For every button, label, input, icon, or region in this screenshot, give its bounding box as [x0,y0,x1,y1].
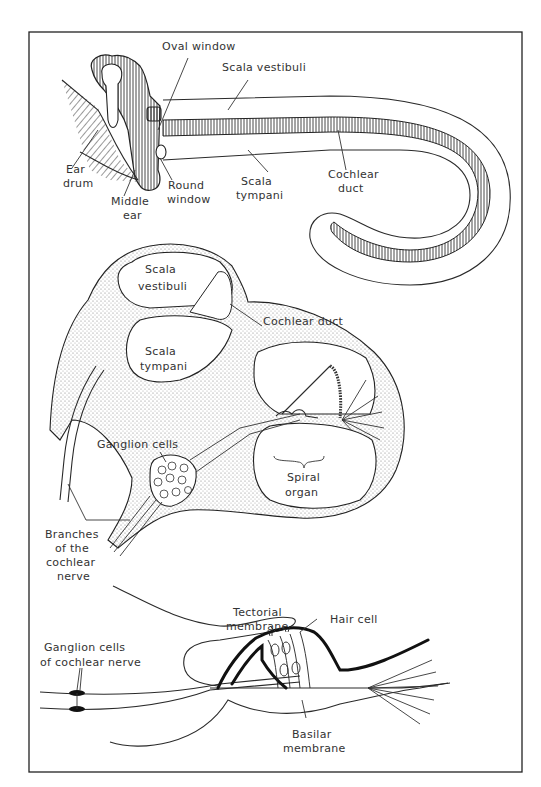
cochlear-duct-band [163,117,490,262]
label-branches-3: cochlear [46,556,95,569]
label-ear-drum-2: drum [63,177,93,190]
cochlea-figure: Oval window Scala vestibuli Ear drum Mid… [0,0,541,787]
label-scala-tympani-1: Scala [241,175,272,188]
label-middle-ear-1: Middle [111,195,149,208]
label-scala-vestibuli-2: vestibuli [138,280,187,293]
label-scala-vestibuli: Scala vestibuli [222,61,306,74]
label-ganglion-2: of cochlear nerve [40,656,141,669]
label-ganglion-cells: Ganglion cells [97,438,178,451]
label-spiral-organ-1: Spiral [287,471,320,484]
label-cochlear-duct-1: Cochlear [328,168,379,181]
label-scala-tympani-1: Scala [145,345,176,358]
label-cochlear-duct-2: duct [338,182,364,195]
label-oval-window: Oval window [162,40,236,53]
label-branches-4: nerve [57,570,90,583]
label-ear-drum-1: Ear [66,163,85,176]
panel-uncoiled-cochlea: Oval window Scala vestibuli Ear drum Mid… [62,40,510,285]
label-scala-tympani-2: tympani [236,189,283,202]
label-basilar-1: Basilar [292,728,332,741]
label-round-window-1: Round [168,179,204,192]
label-cochlear-duct: Cochlear duct [263,315,344,328]
label-branches-2: of the [55,542,89,555]
label-spiral-organ-2: organ [285,486,318,499]
panel-cross-section: Scala vestibuli Cochlear duct Scala tymp… [45,244,404,583]
label-branches-1: Branches [45,528,99,541]
label-ganglion-1: Ganglion cells [44,641,125,654]
round-window-shape [156,145,166,159]
oval-window-shape [147,107,161,121]
label-tectorial-2: membrane [226,620,289,633]
fan-fibers [368,660,438,724]
label-tectorial-1: Tectorial [232,606,282,619]
label-hair-cell: Hair cell [330,613,378,626]
label-middle-ear-2: ear [123,209,142,222]
label-round-window-2: window [167,193,211,206]
label-scala-tympani-2: tympani [140,360,187,373]
diagram-canvas: Oval window Scala vestibuli Ear drum Mid… [0,0,541,787]
label-basilar-2: membrane [283,742,346,755]
lower-scala-vestibuli [254,342,375,414]
panel-spiral-organ-detail: Tectorial membrane Hair cell Ganglion ce… [40,586,450,755]
label-scala-vestibuli-1: Scala [145,263,176,276]
